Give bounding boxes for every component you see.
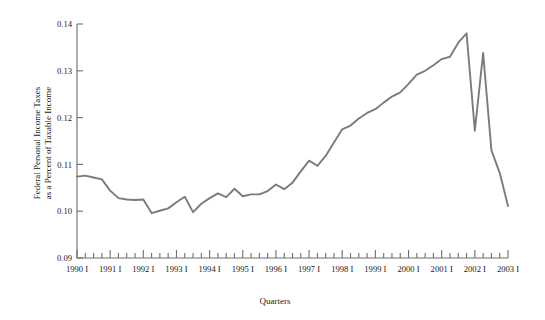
y-axis-title-line-1: Federal Personal Income Taxes xyxy=(32,86,42,199)
x-tick-label: 1995 I xyxy=(232,264,254,274)
x-tick-label: 1991 I xyxy=(99,264,121,274)
x-tick-label: 1998 I xyxy=(331,264,353,274)
x-tick-label: 1992 I xyxy=(132,264,154,274)
x-tick-label: 1996 I xyxy=(265,264,287,274)
x-tick-label: 1994 I xyxy=(199,264,221,274)
x-tick-label: 1990 I xyxy=(66,264,88,274)
line-chart: 0.090.100.110.120.130.14 1990 I1991 I199… xyxy=(0,0,545,320)
x-tick-label: 2002 I xyxy=(464,264,486,274)
x-tick-label: 2003 I xyxy=(497,264,519,274)
x-tick-label: 1993 I xyxy=(165,264,187,274)
x-axis-tick-labels: 1990 I1991 I1992 I1993 I1994 I1995 I1996… xyxy=(66,264,519,274)
y-tick-label: 0.13 xyxy=(57,66,72,76)
y-tick-label: 0.09 xyxy=(57,253,72,263)
y-axis-tick-labels: 0.090.100.110.120.130.14 xyxy=(57,19,73,263)
x-axis-title: Quarters xyxy=(260,296,291,306)
y-axis-title-line-2: as a Percent of Taxable Income xyxy=(43,87,53,199)
x-tick-label: 2001 I xyxy=(431,264,453,274)
y-tick-label: 0.12 xyxy=(57,113,72,123)
x-tick-label: 1997 I xyxy=(298,264,320,274)
chart-figure: 0.090.100.110.120.130.14 1990 I1991 I199… xyxy=(0,0,545,320)
x-tick-label: 1999 I xyxy=(364,264,386,274)
y-tick-label: 0.11 xyxy=(57,160,72,170)
y-tick-label: 0.10 xyxy=(57,206,72,216)
x-tick-label: 2000 I xyxy=(397,264,419,274)
y-tick-label: 0.14 xyxy=(57,19,73,29)
data-series-line xyxy=(77,33,508,213)
